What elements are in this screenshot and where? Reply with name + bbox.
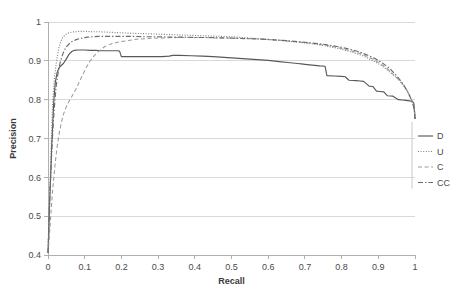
series-group	[48, 31, 415, 253]
x-tick-label: 0.7	[299, 262, 312, 272]
y-tick-label: 0.8	[28, 95, 41, 105]
y-tick-label: 0.5	[28, 211, 41, 221]
x-tick-label: 0.9	[372, 262, 385, 272]
x-tick-label: 0.5	[225, 262, 238, 272]
series-line-cc	[48, 36, 415, 253]
x-tick-label: 0.1	[78, 262, 91, 272]
chart-canvas: 0.40.50.60.70.80.91 00.10.20.30.40.50.60…	[0, 0, 464, 304]
series-line-u	[48, 31, 415, 253]
x-tick-label: 0.6	[262, 262, 275, 272]
legend: DUCCC	[412, 122, 450, 189]
legend-label-d: D	[437, 131, 444, 141]
x-tick-labels: 00.10.20.30.40.50.60.70.80.91	[45, 262, 417, 272]
series-line-d	[48, 50, 415, 253]
y-tick-label: 0.9	[28, 56, 41, 66]
precision-recall-chart: 0.40.50.60.70.80.91 00.10.20.30.40.50.60…	[0, 0, 464, 304]
y-tick-label: 1	[36, 17, 41, 27]
y-tick-labels: 0.40.50.60.70.80.91	[28, 17, 41, 260]
legend-label-c: C	[437, 162, 444, 172]
axis-titles-group: RecallPrecision	[8, 118, 245, 286]
x-tick-label: 0.4	[189, 262, 202, 272]
x-tick-label: 0	[45, 262, 50, 272]
series-line-c	[48, 38, 415, 254]
y-tick-label: 0.7	[28, 134, 41, 144]
legend-label-cc: CC	[437, 178, 450, 188]
x-axis-title: Recall	[218, 276, 245, 286]
x-tick-label: 0.2	[115, 262, 128, 272]
y-axis-title: Precision	[8, 118, 18, 159]
x-tick-label: 1	[412, 262, 417, 272]
x-tick-label: 0.3	[152, 262, 165, 272]
gridlines-group	[48, 22, 415, 255]
y-tick-label: 0.6	[28, 173, 41, 183]
legend-label-u: U	[437, 147, 444, 157]
x-tick-label: 0.8	[335, 262, 348, 272]
y-tick-label: 0.4	[28, 250, 41, 260]
